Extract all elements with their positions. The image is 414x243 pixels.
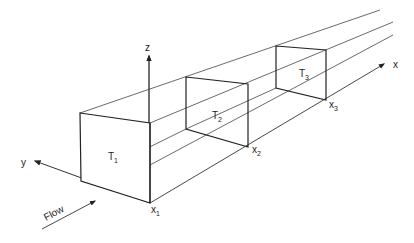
svg-text:T3: T3 [299, 68, 309, 81]
channel-diagram: T1 T2 T3 x1 x2 x3 x y z Flow [0, 0, 414, 243]
position-label-x2: x2 [252, 144, 261, 157]
z-axis-label: z [145, 42, 150, 53]
section-label-t2: T2 [212, 110, 222, 123]
position-label-x3: x3 [329, 99, 338, 112]
svg-text:x1: x1 [151, 204, 160, 217]
svg-text:T2: T2 [212, 110, 222, 123]
flow-label: Flow [42, 203, 66, 223]
position-label-x1: x1 [151, 204, 160, 217]
x-axis [150, 64, 384, 203]
y-axis-label: y [21, 157, 26, 168]
svg-text:x2: x2 [252, 144, 261, 157]
diagram-canvas: T1 T2 T3 x1 x2 x3 x y z Flow [0, 0, 414, 243]
section-label-t3: T3 [299, 68, 309, 81]
svg-text:x3: x3 [329, 99, 338, 112]
x-axis-label: x [393, 59, 398, 70]
